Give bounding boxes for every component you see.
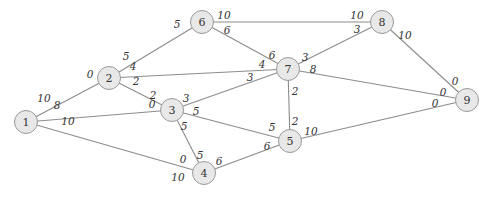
node-3: 3 (161, 99, 184, 122)
edge-weight-label: 5 (193, 105, 200, 117)
edge-weight-label: 10 (217, 9, 231, 21)
node-label: 1 (23, 116, 30, 129)
edge-1-4 (26, 122, 204, 173)
edge-weight-label: 10 (350, 9, 364, 21)
node-label: 2 (106, 72, 113, 85)
node-label: 7 (285, 63, 292, 76)
edge-weight-label: 5 (269, 121, 276, 133)
edge-weight-label: 6 (216, 155, 223, 167)
edge-weight-label: 10 (171, 171, 185, 183)
edge-weight-label: 6 (269, 49, 276, 61)
edge-weight-label: 0 (432, 97, 439, 109)
node-4: 4 (193, 162, 216, 185)
edge-weight-label: 0 (180, 153, 187, 165)
node-8: 8 (371, 11, 394, 34)
edge-weight-label: 6 (224, 24, 231, 36)
edge-6-7 (202, 22, 288, 69)
edge-weight-label: 5 (123, 50, 130, 62)
edge-weight-label: 10 (37, 92, 51, 104)
edge-weight-label: 10 (61, 115, 75, 127)
node-label: 4 (201, 167, 208, 180)
edge-weight-label: 5 (197, 149, 204, 161)
edge-weight-label: 0 (87, 68, 94, 80)
edge-weight-label: 4 (129, 60, 137, 72)
edge-weight-label: 2 (291, 85, 299, 97)
edge-weight-label: 3 (247, 71, 254, 83)
edge-weight-label: 0 (440, 86, 447, 98)
edge-weight-label: 3 (302, 51, 309, 63)
node-2: 2 (98, 67, 121, 90)
edge-weight-label: 8 (54, 99, 61, 111)
edge-8-9 (382, 22, 467, 100)
edge-weight-label: 0 (452, 75, 459, 87)
node-5: 5 (279, 130, 302, 153)
edge-weight-label: 3 (354, 23, 361, 35)
edge-weight-label: 2 (291, 115, 299, 127)
edge-3-7 (172, 69, 288, 110)
node-1: 1 (15, 111, 38, 134)
edge-weight-label: 8 (310, 63, 317, 75)
node-label: 9 (464, 94, 471, 107)
edge-weight-label: 2 (132, 75, 140, 87)
node-label: 6 (199, 16, 206, 29)
node-label: 3 (169, 104, 176, 117)
node-label: 5 (287, 135, 294, 148)
edge-weight-label: 6 (264, 140, 271, 152)
edge-1-3 (26, 110, 172, 122)
edge-weight-label: 5 (181, 120, 188, 132)
node-6: 6 (191, 11, 214, 34)
node-label: 8 (379, 16, 386, 29)
node-7: 7 (277, 58, 300, 81)
weighted-graph: 1008010105544223355550661010663380221001… (0, 0, 497, 199)
node-9: 9 (456, 89, 479, 112)
edge-weight-label: 4 (258, 58, 266, 70)
edge-weight-label: 3 (183, 92, 190, 104)
edge-weight-label: 10 (398, 29, 412, 41)
edges-layer (26, 22, 467, 173)
edge-weight-label: 2 (149, 89, 157, 101)
edge-weight-label: 10 (304, 125, 318, 137)
edge-weight-label: 5 (174, 18, 181, 30)
